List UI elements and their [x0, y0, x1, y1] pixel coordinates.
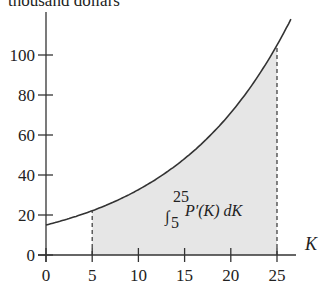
- y-tick-label: 80: [18, 86, 35, 105]
- x-tick-label: 25: [269, 266, 286, 285]
- shaded-area: [92, 45, 277, 255]
- x-tick-label: 5: [88, 266, 97, 285]
- y-tick-label: 60: [18, 126, 35, 145]
- x-tick-label: 20: [222, 266, 239, 285]
- svg-text:5: 5: [171, 214, 179, 231]
- x-tick-label: 10: [130, 266, 147, 285]
- x-axis-label: K: [304, 234, 318, 254]
- y-tick-label: 100: [10, 46, 36, 65]
- x-tick-label: 0: [42, 266, 51, 285]
- chart-plot: 0510152025 020406080100 K ∫ 25 5 P′(K) d…: [0, 0, 319, 302]
- y-tick-label: 20: [18, 206, 35, 225]
- y-tick-label: 0: [27, 246, 36, 265]
- y-tick-label: 40: [18, 166, 35, 185]
- x-tick-label: 15: [176, 266, 193, 285]
- svg-text:P′(K) dK: P′(K) dK: [184, 202, 244, 220]
